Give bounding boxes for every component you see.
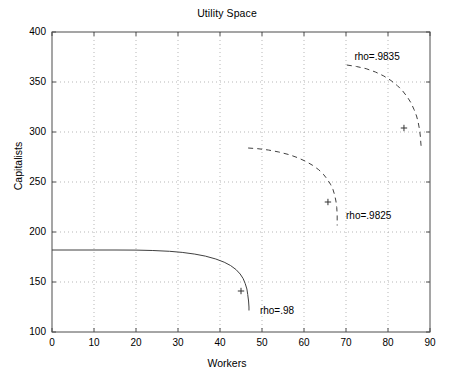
y-tick-label: 200 — [12, 227, 46, 237]
curve-rho9825 — [248, 148, 337, 226]
x-tick-label: 40 — [205, 338, 235, 348]
marker-plus-2 — [401, 125, 407, 131]
x-tick-label: 10 — [79, 338, 109, 348]
figure-canvas: Utility Space 100150200250300350400 0102… — [0, 0, 454, 381]
curve-rho9835 — [347, 65, 421, 147]
curve-rho98 — [52, 250, 249, 311]
y-axis-title: Capitalists — [12, 126, 24, 206]
marker-plus-1 — [325, 199, 331, 205]
x-tick-label: 70 — [331, 338, 361, 348]
gridlines — [52, 32, 430, 332]
y-tick-label: 400 — [12, 27, 46, 37]
x-tick-label: 20 — [121, 338, 151, 348]
annotation-rho9825: rho=.9825 — [346, 211, 391, 221]
annotation-rho98: rho=.98 — [260, 306, 294, 316]
y-tick-label: 150 — [12, 277, 46, 287]
x-tick-label: 80 — [373, 338, 403, 348]
x-tick-label: 0 — [37, 338, 67, 348]
x-tick-label: 60 — [289, 338, 319, 348]
y-tick-label: 100 — [12, 327, 46, 337]
annotation-rho9835: rho=.9835 — [354, 52, 399, 62]
x-axis-title: Workers — [0, 357, 454, 369]
data-curves — [52, 65, 421, 311]
x-tick-label: 30 — [163, 338, 193, 348]
y-tick-label: 350 — [12, 77, 46, 87]
marker-plus-0 — [238, 288, 244, 294]
x-tick-label: 90 — [415, 338, 445, 348]
x-tick-label: 50 — [247, 338, 277, 348]
